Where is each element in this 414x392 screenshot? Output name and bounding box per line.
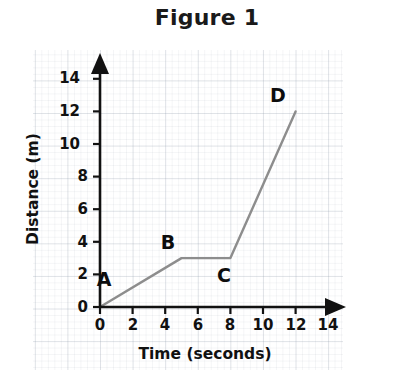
y-axis-title: Distance (m) [24, 94, 42, 284]
x-tick-label-14: 14 [315, 318, 341, 333]
x-tick-label-8: 8 [217, 318, 243, 333]
y-tick-label-10: 10 [54, 137, 80, 152]
y-tick-label-8: 8 [62, 169, 88, 184]
x-tick-label-6: 6 [185, 318, 211, 333]
x-tick-label-4: 4 [152, 318, 178, 333]
point-label-c: C [214, 266, 234, 285]
y-tick-label-0: 0 [62, 300, 88, 315]
y-tick-label-12: 12 [54, 104, 80, 119]
x-tick-label-12: 12 [283, 318, 309, 333]
point-label-a: A [94, 270, 114, 289]
x-tick-label-0: 0 [87, 318, 113, 333]
x-axis-title: Time (seconds) [60, 345, 350, 363]
y-tick-label-14: 14 [54, 71, 80, 86]
point-label-b: B [158, 233, 178, 252]
y-tick-label-6: 6 [62, 202, 88, 217]
y-tick-label-2: 2 [62, 267, 88, 282]
page-title: Figure 1 [0, 5, 414, 30]
x-tick-label-10: 10 [250, 318, 276, 333]
y-tick-label-4: 4 [62, 235, 88, 250]
x-tick-label-2: 2 [120, 318, 146, 333]
point-label-d: D [268, 86, 288, 105]
